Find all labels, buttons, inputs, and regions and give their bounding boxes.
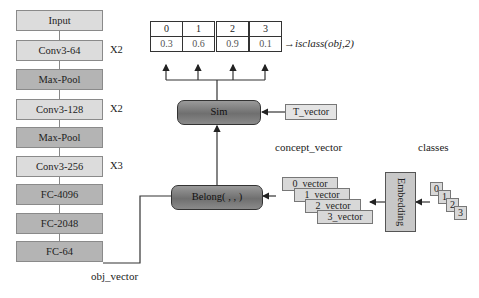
concept-vector-title: concept_vector [275, 141, 342, 153]
table-value-cell: 0.9 [216, 36, 249, 52]
layer-max-pool: Max-Pool [16, 69, 103, 90]
table-value-cell: 0.3 [150, 36, 183, 52]
table-value-cell: 0.6 [182, 36, 215, 52]
layer-max-pool: Max-Pool [16, 127, 103, 148]
classes-title: classes [418, 141, 449, 153]
embedding-block: Embedding [385, 172, 416, 232]
layer-fc-2048: FC-2048 [16, 213, 103, 234]
layer-conv3-256: Conv3-256 [16, 156, 103, 177]
obj-vector-label: obj_vector [91, 270, 138, 282]
table-value-cell: 0.1 [249, 36, 282, 52]
table-header-cell: 1 [182, 21, 215, 37]
repeat-label: X2 [110, 103, 123, 114]
layer-fc-64: FC-64 [16, 241, 103, 262]
class-item-3: 3 [454, 206, 467, 220]
embedding-label: Embedding [395, 178, 406, 226]
sim-block: Sim [177, 100, 261, 125]
concept-vector-3: 3_vector [317, 210, 373, 224]
repeat-label: X2 [110, 44, 123, 55]
t-vector-box: T_vector [285, 104, 337, 120]
layer-input: Input [16, 10, 103, 31]
layer-fc-4096: FC-4096 [16, 184, 103, 205]
repeat-label: X3 [110, 160, 123, 171]
layer-conv3-64: Conv3-64 [16, 40, 103, 61]
layer-conv3-128: Conv3-128 [16, 99, 103, 120]
table-header-cell: 2 [216, 21, 249, 37]
table-header-cell: 3 [249, 21, 282, 37]
belong-block: Belong( , , ) [171, 185, 263, 210]
table-header-cell: 0 [150, 21, 183, 37]
isclass-annotation: →isclass(obj,2) [284, 37, 354, 49]
